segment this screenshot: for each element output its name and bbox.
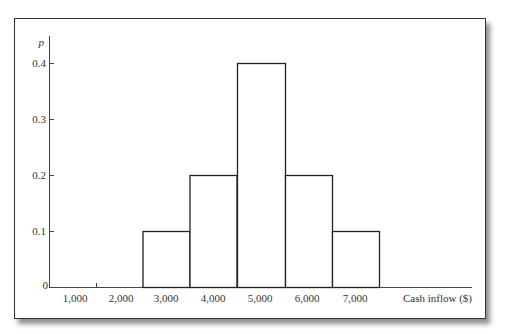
x-tick-label: 1,000	[63, 292, 88, 304]
x-axis-label: Cash inflow ($)	[403, 292, 472, 305]
y-tick-label: 0	[43, 279, 49, 291]
bar-6000	[286, 176, 333, 288]
bar-4000	[190, 176, 237, 288]
y-tick-label: 0.3	[32, 113, 46, 125]
bar-5000	[238, 64, 286, 288]
histogram-chart: p 0.4 0.3 0.2 0.1 0 1,000 2,000 3,000 4,…	[0, 0, 506, 334]
bar-3000	[143, 232, 190, 288]
x-tick-label: 6,000	[295, 292, 320, 304]
x-tick-label: 3,000	[154, 292, 179, 304]
bars	[143, 64, 380, 288]
y-axis-label: p	[38, 36, 45, 48]
x-tick-label: 2,000	[109, 292, 134, 304]
x-tick-label: 5,000	[248, 292, 273, 304]
y-tick-label: 0.2	[32, 169, 46, 181]
x-tick-label: 4,000	[201, 292, 226, 304]
x-tick-label: 7,000	[343, 292, 368, 304]
bar-7000	[333, 232, 380, 288]
y-tick-label: 0.1	[32, 225, 46, 237]
y-tick-label: 0.4	[32, 57, 46, 69]
